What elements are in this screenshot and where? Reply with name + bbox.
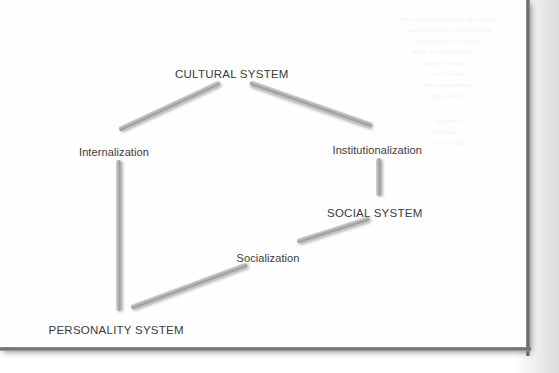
page-edge-right-shadow — [526, 0, 530, 356]
connector-social-to-socialization — [296, 216, 370, 244]
systems-cycle-diagram: CULTURAL SYSTEMPERSONALITY SYSTEMSOCIAL … — [0, 0, 528, 349]
connector-cultural-to-institutionalization — [249, 80, 374, 128]
connector-internalization-to-personality — [116, 160, 121, 311]
node-label-social: SOCIAL SYSTEM — [327, 207, 423, 219]
connector-institutionalization-to-social — [376, 158, 381, 196]
scanned-page-root: the resulting pattern of socialand norma… — [0, 0, 559, 373]
page-sheet: the resulting pattern of socialand norma… — [0, 0, 528, 349]
edge-label-internalization: Internalization — [79, 146, 149, 158]
connector-socialization-to-personality — [130, 262, 248, 310]
page-edge-bottom-shadow — [0, 347, 531, 351]
edge-label-institutionalization: Institutionalization — [333, 144, 422, 156]
node-label-personality: PERSONALITY SYSTEM — [49, 324, 184, 336]
node-label-cultural: CULTURAL SYSTEM — [175, 68, 289, 80]
edge-label-socialization: Socialization — [237, 252, 300, 264]
connector-cultural-to-internalization — [118, 80, 221, 132]
